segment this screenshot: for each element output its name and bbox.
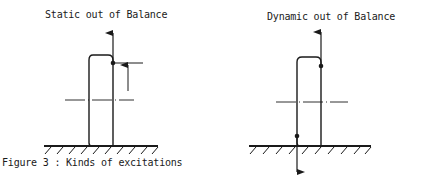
static-ground-hatch — [45, 147, 158, 154]
dynamic-wheel-profile — [297, 57, 321, 146]
dynamic-ground-hatch — [250, 147, 371, 154]
dynamic-panel — [249, 32, 371, 172]
balance-diagram — [0, 0, 423, 180]
dynamic-top-imbalance-dot — [319, 64, 324, 69]
static-wheel-profile — [89, 55, 113, 146]
static-panel — [44, 33, 158, 154]
